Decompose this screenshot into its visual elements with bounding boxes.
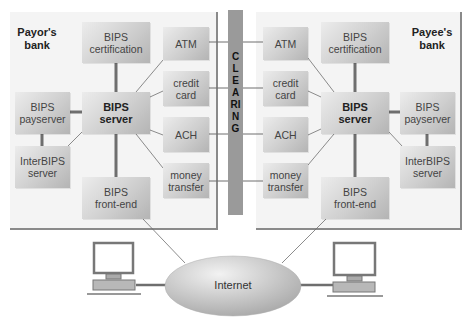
payee-bips-server: BIPS server bbox=[321, 92, 389, 134]
payor-bips-certification: BIPS certification bbox=[82, 22, 150, 63]
payor-bank-label: Payor's bank bbox=[14, 26, 60, 52]
payee-interbips-server: InterBIPS server bbox=[400, 146, 455, 188]
clearing-bar: CLEARING bbox=[228, 10, 243, 215]
payee-atm: ATM bbox=[263, 27, 308, 60]
internet-label: Internet bbox=[200, 279, 266, 291]
payor-atm: ATM bbox=[163, 27, 209, 60]
payee-bank-label: Payee's bank bbox=[408, 26, 456, 52]
payee-credit-card: credit card bbox=[263, 71, 308, 106]
payee-bips-payserver: BIPS payserver bbox=[400, 92, 455, 134]
payor-bips-payserver: BIPS payserver bbox=[15, 92, 70, 134]
payee-bips-certification: BIPS certification bbox=[321, 22, 389, 63]
clearing-label: CLEARING bbox=[231, 51, 241, 135]
computer-icon-left bbox=[87, 243, 141, 294]
payee-bips-front-end: BIPS front-end bbox=[321, 177, 389, 219]
payor-bips-server: BIPS server bbox=[82, 92, 150, 134]
payor-ach: ACH bbox=[163, 117, 209, 152]
payor-bips-front-end: BIPS front-end bbox=[82, 177, 150, 219]
computer-icon-right bbox=[327, 243, 383, 296]
bips-architecture-diagram: Payor's bank BIPS certification BIPS ser… bbox=[0, 0, 468, 324]
payee-money-transfer: money transfer bbox=[263, 163, 308, 198]
payee-ach: ACH bbox=[263, 117, 308, 152]
payor-credit-card: credit card bbox=[163, 71, 209, 106]
payor-interbips-server: InterBIPS server bbox=[15, 146, 70, 188]
payor-money-transfer: money transfer bbox=[163, 163, 209, 198]
